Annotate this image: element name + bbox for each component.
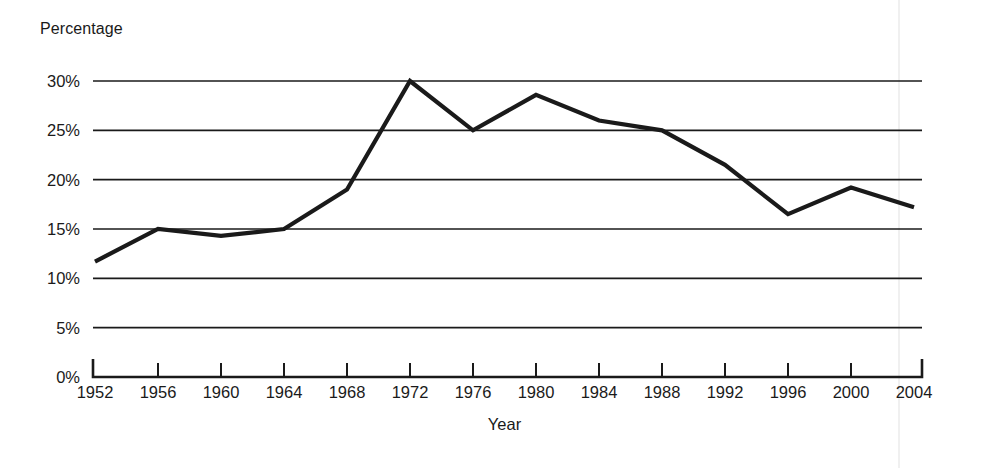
x-axis-tick-label: 1996 — [770, 383, 807, 402]
x-axis-tick-label: 1952 — [77, 383, 114, 402]
axis-group — [93, 359, 922, 377]
plot-area: 0%5%10%15%20%25%30% 19521956196019641968… — [0, 0, 986, 468]
xtick-group — [158, 363, 851, 377]
x-axis-tick-label: 1956 — [140, 383, 177, 402]
y-axis-tick-label: 30% — [47, 72, 80, 91]
x-axis-tick-label: 2004 — [896, 383, 933, 402]
x-axis-title: Year — [488, 415, 521, 434]
x-axis-tick-label: 1964 — [266, 383, 303, 402]
x-axis-tick-label: 1976 — [455, 383, 492, 402]
y-axis-tick-label: 15% — [47, 220, 80, 239]
x-axis-tick-label: 2000 — [833, 383, 870, 402]
data-series-line — [95, 81, 914, 262]
y-axis-tick-label: 25% — [47, 121, 80, 140]
y-axis-tick-label: 20% — [47, 170, 80, 189]
y-axis-tick-label: 10% — [47, 269, 80, 288]
gridline-group — [93, 81, 922, 328]
y-axis-tick-label: 5% — [56, 318, 80, 337]
x-axis-tick-label: 1988 — [644, 383, 681, 402]
x-axis-tick-label: 1980 — [518, 383, 555, 402]
x-axis-tick-label: 1992 — [707, 383, 744, 402]
x-axis-tick-label: 1968 — [329, 383, 366, 402]
x-axis-tick-label: 1972 — [392, 383, 429, 402]
x-axis-line — [93, 359, 922, 377]
x-axis-tick-label: 1960 — [203, 383, 240, 402]
chart-page: Percentage 0%5%10%15%20%25%30% 195219561… — [0, 0, 986, 468]
x-axis-tick-label: 1984 — [581, 383, 618, 402]
